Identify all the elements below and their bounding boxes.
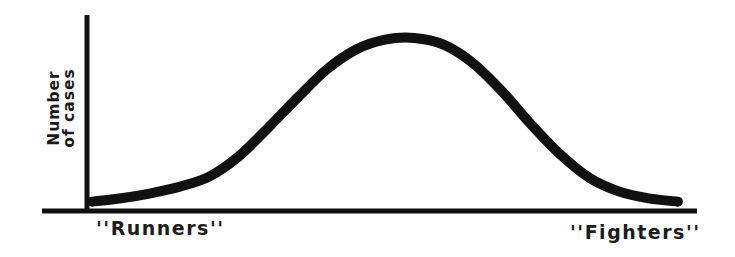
- distribution-curve: [92, 38, 678, 202]
- y-axis-label: Number of cases: [38, 60, 86, 155]
- x-label-fighters: ''Fighters'': [570, 221, 701, 243]
- y-axis-label-line-2: of cases: [62, 68, 77, 147]
- x-label-runners: ''Runners'': [96, 217, 225, 239]
